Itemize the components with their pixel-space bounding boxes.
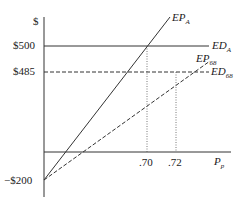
ed-a-label-main: ED [212,39,227,51]
ed-68-label: ED68 [211,66,233,77]
x-tick-72: .72 [168,157,182,168]
x-axis-label-sub: p [221,162,225,170]
x-tick-70: .70 [139,157,153,168]
ep-a-label-sub: A [185,18,189,26]
y-tick-neg200: −$200 [4,175,32,186]
ed-68-label-sub: 68 [226,72,233,80]
y-axis-label: $ [33,16,39,27]
ep-a-label: EPA [172,12,190,23]
y-tick-485: $485 [13,66,35,77]
ep-68-label-main: EP [196,52,209,64]
x-axis-label: Pp [214,156,224,167]
ep-68-label: EP68 [196,53,216,64]
ep-a-label-main: EP [172,11,185,23]
ed-a-label: EDA [212,40,231,51]
chart-canvas [0,0,245,202]
ed-a-label-sub: A [227,46,231,54]
y-tick-500: $500 [13,40,35,51]
ep-68-line [44,61,210,180]
ed-68-label-main: ED [211,65,226,77]
x-axis-label-main: P [214,155,221,167]
